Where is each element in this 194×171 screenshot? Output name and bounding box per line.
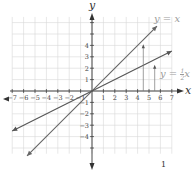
y-axis-label: y (89, 0, 95, 11)
x-tick-label: −6 (19, 94, 29, 102)
y-tick-label: −2 (79, 110, 89, 118)
footer-mark: 1 (161, 160, 166, 169)
eq2-prefix: y = (160, 68, 180, 79)
x-tick-label: −7 (7, 94, 17, 102)
y-tick-label: −3 (79, 122, 89, 130)
x-tick-label: 7 (170, 94, 174, 102)
x-tick-label: 3 (124, 94, 128, 102)
eq2-suffix: x (184, 68, 190, 79)
y-tick-label: 2 (85, 65, 89, 73)
x-tick-label: 6 (158, 94, 162, 102)
rise-arrowhead-icon (142, 44, 145, 48)
x-tick-label: 5 (147, 94, 151, 102)
coordinate-plane: −7−6−5−4−3−2−11234567−4−3−2−11234 (0, 0, 194, 171)
axes (3, 13, 184, 170)
y-axis-arrow-down-icon (90, 163, 95, 170)
x-tick-label: −5 (30, 94, 40, 102)
y-tick-label: 1 (85, 76, 89, 84)
equation-label-y-equals-x: y = x (154, 14, 180, 24)
x-tick-label: 1 (101, 94, 105, 102)
y-tick-label: −4 (79, 133, 89, 141)
equation-label-y-equals-half-x: y = 12x (160, 68, 190, 81)
rise-arrowhead-icon (153, 65, 156, 69)
x-tick-label: −3 (53, 94, 63, 102)
y-tick-label: 3 (85, 53, 89, 61)
x-axis-label: x (185, 85, 191, 96)
x-tick-label: 4 (136, 94, 140, 102)
y-tick-label: 4 (85, 42, 89, 50)
y-axis-arrow-up-icon (90, 13, 95, 20)
x-tick-label: 2 (113, 94, 117, 102)
x-axis-arrow-right-icon (177, 89, 184, 94)
x-tick-label: −4 (42, 94, 52, 102)
